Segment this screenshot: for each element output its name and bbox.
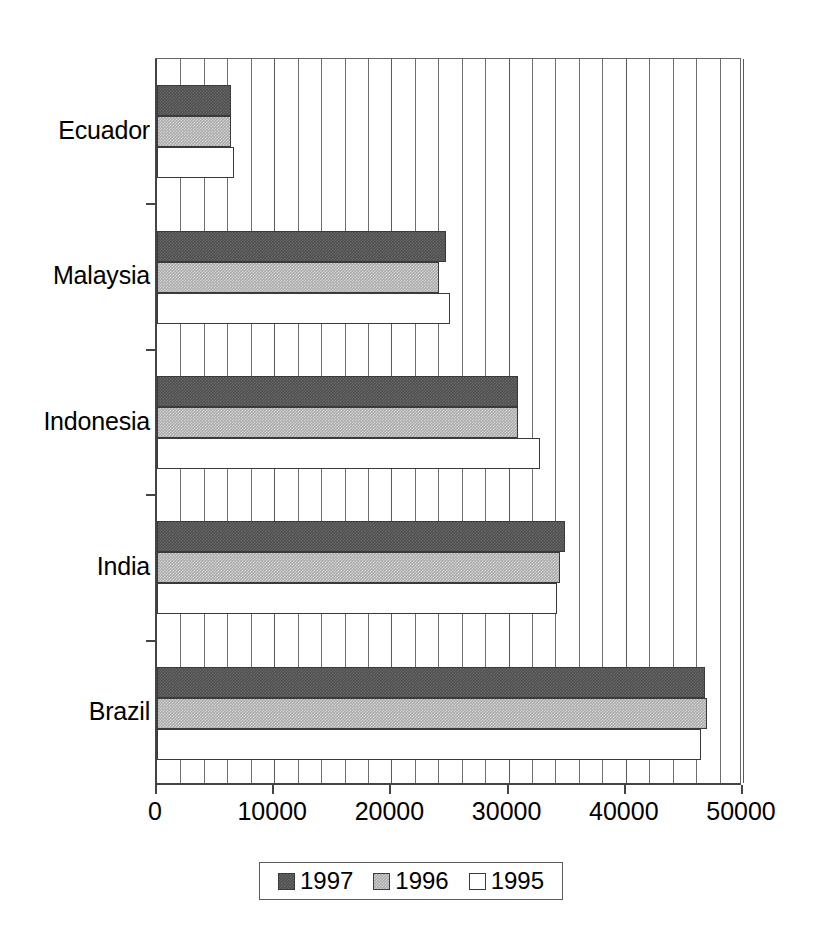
x-axis-tick <box>155 785 157 794</box>
x-axis-tick <box>624 785 626 794</box>
bar <box>157 667 705 698</box>
gridline-minor <box>720 59 721 783</box>
legend: 199719961995 <box>259 862 563 900</box>
bar <box>157 729 701 760</box>
x-axis-tick <box>741 785 743 794</box>
bar <box>157 583 557 614</box>
category-label-brazil: Brazil <box>2 699 150 724</box>
bar-chart: EcuadorMalaysiaIndonesiaIndiaBrazil 0100… <box>0 0 822 942</box>
bar <box>157 262 439 293</box>
plot-area <box>155 58 741 785</box>
x-axis-label: 20000 <box>355 797 425 825</box>
legend-swatch-icon <box>469 873 486 890</box>
y-axis-tick <box>146 349 155 351</box>
legend-label: 1997 <box>300 869 353 893</box>
x-axis-label: 10000 <box>237 797 307 825</box>
legend-swatch-icon <box>373 873 390 890</box>
category-label-india: India <box>2 554 150 579</box>
x-axis-label: 30000 <box>472 797 542 825</box>
x-axis-label: 50000 <box>706 797 776 825</box>
y-axis-tick <box>146 640 155 642</box>
x-axis-label: 0 <box>148 797 162 825</box>
bar <box>157 552 560 583</box>
bar <box>157 116 231 147</box>
bar <box>157 293 450 324</box>
legend-label: 1996 <box>395 869 448 893</box>
category-label-ecuador: Ecuador <box>2 118 150 143</box>
bar <box>157 85 231 116</box>
x-axis-tick <box>389 785 391 794</box>
x-axis-label: 40000 <box>589 797 659 825</box>
legend-entry-1997: 1997 <box>278 869 353 893</box>
bar <box>157 521 565 552</box>
gridline-major <box>743 59 744 783</box>
bar <box>157 698 707 729</box>
legend-label: 1995 <box>491 869 544 893</box>
y-axis-tick <box>146 203 155 205</box>
legend-entry-1996: 1996 <box>373 869 448 893</box>
legend-swatch-icon <box>278 873 295 890</box>
y-axis-tick <box>146 494 155 496</box>
x-axis-tick <box>507 785 509 794</box>
bar <box>157 407 518 438</box>
bar <box>157 438 540 469</box>
bar <box>157 231 446 262</box>
bar <box>157 376 518 407</box>
category-label-indonesia: Indonesia <box>2 409 150 434</box>
category-label-malaysia: Malaysia <box>2 263 150 288</box>
legend-entry-1995: 1995 <box>469 869 544 893</box>
bar <box>157 147 234 178</box>
x-axis-tick <box>272 785 274 794</box>
